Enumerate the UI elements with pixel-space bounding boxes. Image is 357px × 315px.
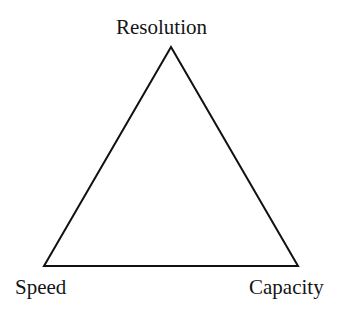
vertex-label-speed: Speed	[15, 277, 66, 298]
triangle-shape	[0, 0, 357, 315]
vertex-label-capacity: Capacity	[249, 277, 324, 298]
triangle-outline	[44, 47, 298, 266]
tradeoff-triangle-diagram: Resolution Speed Capacity	[0, 0, 357, 315]
vertex-label-resolution: Resolution	[116, 17, 207, 38]
